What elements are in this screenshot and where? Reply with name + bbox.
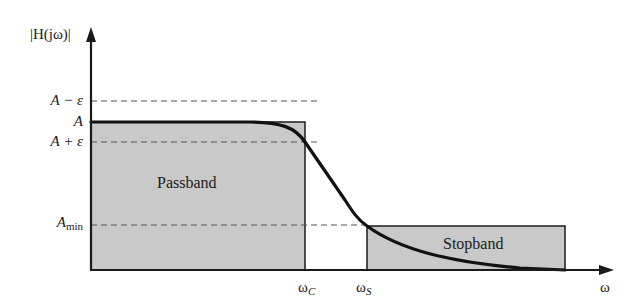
stopband-label: Stopband (443, 236, 503, 252)
x-tick-omega-c-main: ω (298, 279, 308, 295)
x-tick-omega-s: ωS (356, 280, 371, 297)
x-axis-arrow-icon (599, 265, 614, 275)
y-axis-arrow-icon (86, 27, 96, 42)
y-axis-label-text: |H(jω)| (30, 26, 71, 42)
y-tick-a-plus-eps: A + ε (20, 134, 83, 149)
filter-response-diagram (0, 0, 640, 307)
x-tick-omega-s-sub: S (366, 285, 372, 297)
y-axis-label: |H(jω)| (30, 27, 71, 42)
y-tick-a: A (20, 114, 83, 129)
x-tick-omega-s-main: ω (356, 279, 366, 295)
y-tick-a-min-sub: min (66, 220, 83, 232)
y-tick-a-min-main: A (57, 214, 66, 230)
y-tick-a-minus-eps: A − ε (20, 93, 83, 108)
y-tick-a-min: Amin (20, 215, 83, 232)
x-axis-label: ω (600, 280, 610, 295)
passband-label: Passband (157, 175, 217, 191)
passband-region (91, 122, 305, 270)
x-tick-omega-c-sub: C (308, 285, 315, 297)
x-tick-omega-c: ωC (298, 280, 315, 297)
